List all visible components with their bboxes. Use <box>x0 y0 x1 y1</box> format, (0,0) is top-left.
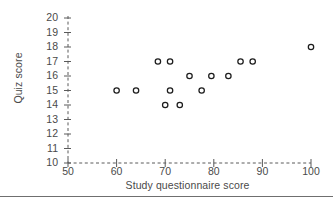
data-point <box>167 88 172 93</box>
data-point <box>238 59 243 64</box>
data-point <box>167 59 172 64</box>
data-point <box>177 102 182 107</box>
data-point <box>133 88 138 93</box>
data-point <box>250 59 255 64</box>
data-point <box>114 88 119 93</box>
data-point <box>308 44 313 49</box>
data-point <box>199 88 204 93</box>
data-point <box>226 73 231 78</box>
data-point <box>209 73 214 78</box>
scatter-plot-figure: Quiz score Study questionnaire score 20 … <box>0 0 333 202</box>
plot-area <box>0 0 333 202</box>
data-point <box>163 102 168 107</box>
data-point <box>187 73 192 78</box>
data-point <box>155 59 160 64</box>
footer-divider <box>0 196 333 197</box>
data-point-group <box>114 44 314 107</box>
axes <box>68 16 311 163</box>
